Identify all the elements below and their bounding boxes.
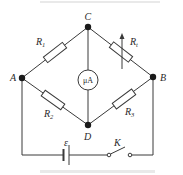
node-b-label: B <box>160 72 166 83</box>
resistor-r3 <box>112 89 135 109</box>
resistor-r1 <box>43 42 66 62</box>
rt-label: Rt <box>129 36 138 48</box>
node-d-label: D <box>83 131 92 142</box>
node-a-label: A <box>9 72 17 83</box>
switch-label: K <box>113 137 122 148</box>
r3-label: R3 <box>124 106 135 118</box>
meter-label: μA <box>83 76 93 85</box>
node-a <box>19 75 25 81</box>
node-b <box>150 74 156 80</box>
node-c <box>85 24 91 30</box>
bridge-circuit-diagram: R1 Rt R2 R3 μA <box>0 0 183 175</box>
r2-label: R2 <box>43 108 54 120</box>
resistor-r2 <box>41 90 65 110</box>
node-d <box>85 122 91 128</box>
switch-k[interactable] <box>107 147 132 157</box>
r1-label: R1 <box>35 36 45 48</box>
microammeter: μA <box>78 70 98 90</box>
node-c-label: C <box>85 11 92 22</box>
top-scan-artifact <box>40 1 160 3</box>
battery <box>63 145 70 165</box>
bottom-scan-artifact <box>40 170 155 173</box>
emf-label: ε <box>64 137 68 148</box>
